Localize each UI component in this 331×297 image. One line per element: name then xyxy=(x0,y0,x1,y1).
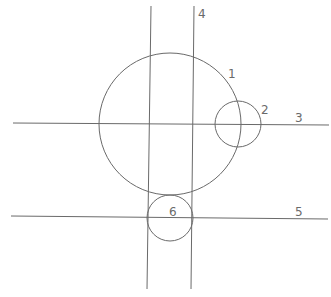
line-label-3: 3 xyxy=(295,111,303,125)
line-3 xyxy=(13,123,329,125)
circle-label-2: 2 xyxy=(261,103,269,117)
diagram-svg: 345126 xyxy=(0,0,331,297)
line-label-4: 4 xyxy=(198,7,206,21)
line-4b xyxy=(147,6,151,289)
circle-label-6: 6 xyxy=(169,205,177,219)
line-4 xyxy=(191,6,194,289)
circle-label-1: 1 xyxy=(228,67,236,81)
line-label-5: 5 xyxy=(295,205,303,219)
diagram-canvas: 345126 xyxy=(0,0,331,297)
